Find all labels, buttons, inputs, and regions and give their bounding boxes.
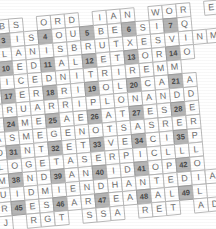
- clue-number: 39: [53, 172, 62, 180]
- cell-letter: C: [149, 134, 156, 144]
- cell-letter: N: [78, 127, 85, 137]
- cell-letter: O: [40, 18, 48, 28]
- cell-letter: N: [29, 47, 36, 57]
- clue-number: 6: [126, 25, 131, 33]
- cell-letter: B: [71, 43, 78, 53]
- cell-letter: U: [20, 104, 27, 114]
- cell-letter: A: [146, 92, 153, 102]
- cell-letter: P: [191, 130, 198, 140]
- cell-letter: R: [1, 204, 8, 214]
- cell-letter: D: [40, 172, 47, 182]
- cell-letter: I: [139, 150, 142, 159]
- cell-letter: S: [43, 200, 50, 210]
- crossword-grid-body[interactable]: UNDEBSORDIANWOREMERIUW1EV2SA3IS4OU5BE6SI…: [0, 0, 216, 229]
- clue-number: 5: [85, 29, 90, 37]
- cell-letter: L: [73, 57, 79, 66]
- cell-letter: G: [25, 160, 33, 170]
- cell-letter: I: [78, 99, 81, 108]
- cell-letter: T: [113, 39, 119, 48]
- cell-letter: R: [61, 86, 68, 96]
- cell-letter: R: [54, 16, 61, 26]
- cell-letter: A: [125, 179, 132, 189]
- cell-letter: A: [68, 170, 75, 180]
- cell-letter: R: [142, 205, 149, 215]
- clue-number: 49: [181, 188, 190, 196]
- grid-cell-letter[interactable]: M: [206, 27, 216, 43]
- cell-letter: P: [123, 151, 130, 161]
- clue-number: 38: [12, 175, 21, 183]
- cell-letter: R: [156, 49, 163, 59]
- cell-letter: V: [168, 34, 175, 44]
- cell-letter: B: [0, 21, 5, 31]
- cell-letter: T: [107, 124, 113, 133]
- cell-letter: R: [129, 66, 136, 76]
- cell-letter: L: [197, 186, 203, 195]
- cell-letter: N: [26, 174, 33, 184]
- clue-number: 4: [43, 32, 48, 40]
- grid-cell-letter[interactable]: A: [204, 168, 216, 184]
- cell-letter: E: [66, 142, 73, 152]
- cell-letter: R: [85, 42, 92, 52]
- cell-letter: A: [110, 11, 117, 21]
- cell-letter: C: [144, 78, 151, 88]
- cell-letter: S: [139, 23, 146, 33]
- cell-letter: I: [155, 22, 158, 31]
- clue-number: 45: [14, 203, 23, 211]
- grid-cell-letter[interactable]: O: [179, 43, 195, 59]
- cell-letter: E: [32, 75, 39, 85]
- clue-number: 18: [46, 88, 55, 96]
- cell-letter: V: [108, 138, 115, 148]
- cell-letter: A: [105, 110, 112, 120]
- clue-number: 32: [51, 144, 60, 152]
- cell-letter: A: [71, 198, 78, 208]
- cell-letter: T: [119, 109, 125, 118]
- cell-letter: S: [86, 210, 93, 220]
- cell-letter: S: [100, 209, 107, 219]
- clue-number: 31: [9, 148, 18, 156]
- cell-letter: P: [90, 98, 97, 108]
- cell-letter: E: [100, 54, 107, 64]
- cell-letter: H: [111, 180, 118, 190]
- cell-letter: O: [0, 148, 3, 158]
- cell-letter: D: [45, 73, 52, 83]
- cell-letter: B: [98, 27, 105, 37]
- clue-number: 48: [140, 192, 149, 200]
- cell-letter: S: [57, 44, 64, 54]
- clue-number: 24: [6, 120, 15, 128]
- cell-letter: M: [210, 30, 216, 40]
- cell-letter: R: [109, 152, 116, 162]
- clue-number: 25: [48, 116, 57, 124]
- cell-letter: N: [24, 146, 31, 156]
- cell-letter: D: [30, 61, 37, 71]
- cell-letter: R: [180, 5, 187, 15]
- grid-cell-letter[interactable]: E: [203, 0, 216, 15]
- clue-number: 7: [168, 21, 173, 29]
- cell-letter: U: [69, 29, 76, 39]
- cell-letter: A: [198, 200, 205, 210]
- cell-letter: I: [16, 34, 19, 43]
- cell-letter: O: [183, 47, 191, 57]
- grid-cell-letter[interactable]: D: [207, 196, 216, 212]
- cell-letter: E: [70, 184, 77, 194]
- cell-letter: C: [151, 148, 158, 158]
- cell-letter: E: [167, 175, 174, 185]
- cell-letter: L: [117, 81, 123, 90]
- cell-letter: A: [0, 134, 2, 144]
- cell-letter: O: [193, 158, 201, 168]
- crossword-grid[interactable]: UNDEBSORDIANWOREMERIUW1EV2SA3IS4OU5BE6SI…: [0, 0, 216, 229]
- cell-letter: I: [16, 189, 19, 198]
- cell-letter: E: [176, 118, 183, 128]
- clue-number: 11: [43, 60, 52, 68]
- cell-letter: M: [22, 132, 30, 142]
- cell-letter: W: [151, 7, 160, 17]
- cell-letter: O: [11, 161, 19, 171]
- cell-letter: S: [28, 33, 35, 43]
- clue-number: 46: [56, 200, 65, 208]
- clue-number: 10: [1, 64, 10, 72]
- cell-letter: R: [190, 117, 197, 127]
- cell-letter: I: [75, 71, 78, 80]
- clue-number: 40: [95, 168, 104, 176]
- cell-letter: E: [16, 62, 23, 72]
- cell-letter: S: [81, 155, 88, 165]
- cell-letter: N: [139, 177, 146, 187]
